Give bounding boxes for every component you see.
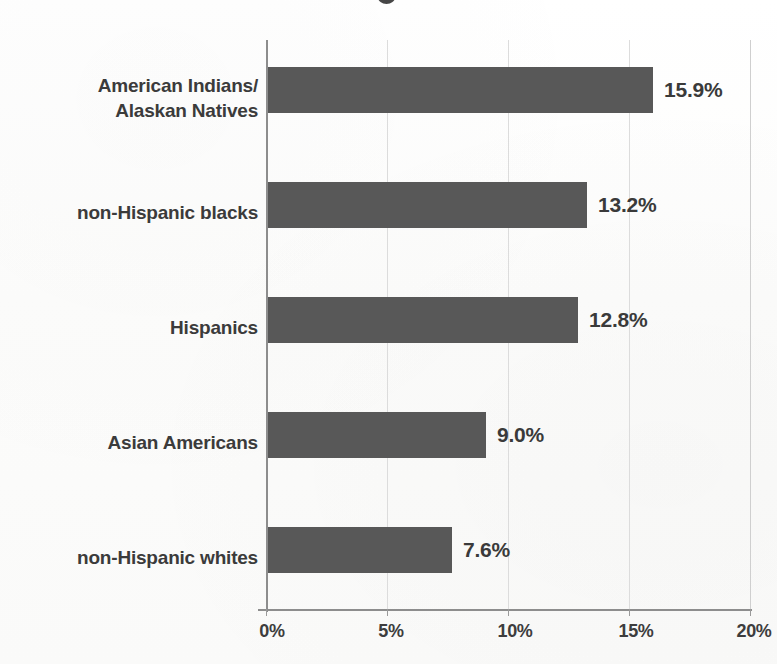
category-label-line: non-Hispanic whites [6,545,258,570]
x-tick-label-5: 5% [378,621,403,642]
bar-value-label: 7.6% [463,527,510,573]
x-axis-line [258,609,752,611]
category-label-line: Hispanics [6,315,258,340]
bar-value-label: 9.0% [497,412,544,458]
bar-value-label: 15.9% [664,67,723,113]
category-label-non-hispanic-whites: non-Hispanic whites [6,545,258,570]
gridline-20 [750,40,751,610]
category-label-line: Alaskan Natives [6,98,258,123]
category-label-line: American Indians/ [6,73,258,98]
plot-area: 15.9% 13.2% 12.8% 9.0% 7.6% [266,40,750,610]
x-tick-mark-5 [387,609,388,616]
x-tick-label-15: 15% [618,621,653,642]
category-label-asian-americans: Asian Americans [6,430,258,455]
bar-chart-figure: 15.9% 13.2% 12.8% 9.0% 7.6% American Ind… [0,0,777,664]
cropped-title-artifact [378,0,395,4]
x-tick-label-10: 10% [497,621,532,642]
bar-value-label: 13.2% [598,182,657,228]
bar-non-hispanic-blacks [268,182,587,228]
x-tick-mark-15 [629,609,630,616]
bar-hispanics [268,297,578,343]
x-tick-label-0: 0% [259,621,284,642]
x-tick-mark-20 [750,609,751,616]
category-label-line: Asian Americans [6,430,258,455]
category-label-non-hispanic-blacks: non-Hispanic blacks [6,200,258,225]
bar-value-label: 12.8% [589,297,648,343]
category-label-american-indians-alaskan-natives: American Indians/ Alaskan Natives [6,73,258,123]
bar-american-indians-alaskan-natives [268,67,653,113]
x-tick-label-20: 20% [736,621,771,642]
x-tick-mark-0 [266,609,267,616]
bar-asian-americans [268,412,486,458]
y-axis-line [266,40,268,612]
category-axis-labels: American Indians/ Alaskan Natives non-Hi… [0,40,258,610]
x-tick-mark-10 [508,609,509,616]
category-label-line: non-Hispanic blacks [6,200,258,225]
category-label-hispanics: Hispanics [6,315,258,340]
bar-non-hispanic-whites [268,527,452,573]
